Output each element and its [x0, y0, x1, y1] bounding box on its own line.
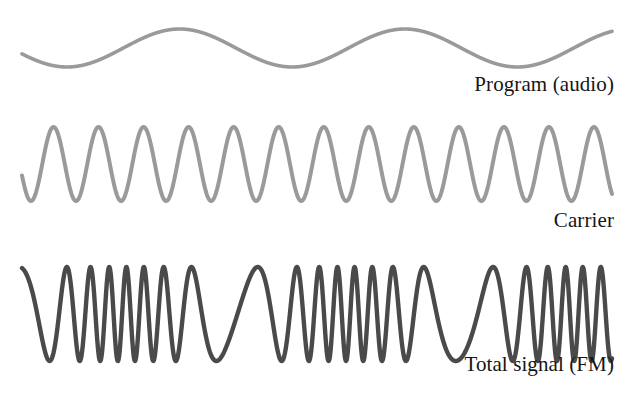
fm-waveform-figure: Program (audio) Carrier Total signal (FM…	[0, 0, 628, 397]
program-audio-waveform	[22, 29, 612, 67]
total-signal-fm-waveform	[22, 267, 612, 361]
carrier-waveform	[22, 127, 612, 201]
carrier-label: Carrier	[554, 210, 614, 231]
total-signal-fm-label: Total signal (FM)	[464, 354, 614, 375]
waveform-canvas	[0, 0, 628, 397]
program-audio-label: Program (audio)	[474, 74, 614, 95]
